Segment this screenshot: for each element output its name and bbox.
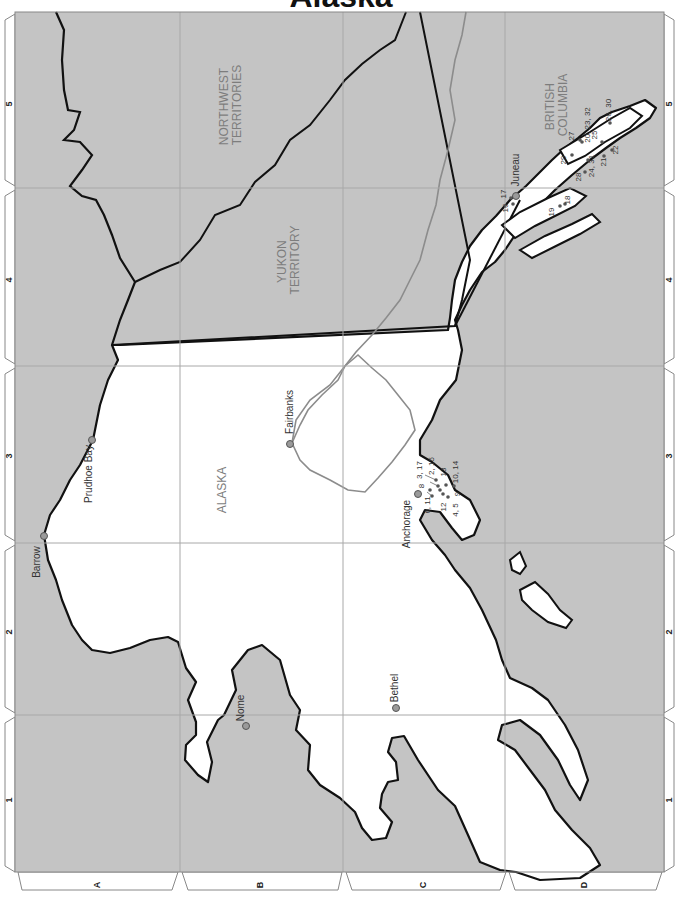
grid-row-right-5: 5 [664,101,674,106]
city-label-juneau: Juneau [510,154,521,187]
city-marker-bethel [393,705,400,712]
site-marker [509,196,513,200]
site-label: 2, 15 [427,457,436,475]
site-label: 22 [611,145,620,154]
site-label: 26, 30 [604,98,613,121]
right-grid-tabs [664,14,674,872]
site-label: 10, 14 [451,460,460,483]
grid-row-right-2: 2 [664,629,674,634]
site-marker [436,484,440,488]
site-label: 9 [453,491,462,496]
grid-row-left-4: 4 [4,277,14,282]
site-marker [438,488,442,492]
grid-col-c: C [418,881,428,888]
grid-col-d: D [579,881,589,888]
grid-row-right-4: 4 [664,277,674,282]
city-label-barrow: Barrow [31,545,42,577]
grid-row-right-3: 3 [664,453,674,458]
site-label: 27 [567,131,576,140]
region-label-nwt: NORTHWEST TERRITORIES [217,65,244,145]
site-label: 21 [599,157,608,166]
site-marker [428,488,432,492]
city-label-anchorage: Anchorage [401,499,412,548]
grid-row-left-3: 3 [4,453,14,458]
site-label: 8 [417,483,426,488]
site-marker [602,154,606,158]
site-marker [441,492,445,496]
alaska-map: 5 4 3 2 1 5 4 3 2 1 A B C D ALASKA YUKON… [0,0,682,910]
site-label: 17 [499,189,508,198]
site-marker [558,204,562,208]
site-marker [570,153,574,157]
city-marker-fairbanks [287,441,294,448]
left-grid-tabs [5,14,15,872]
grid-col-a: A [92,881,102,888]
site-label: 29 [559,155,568,164]
region-label-bc: BRITISH COLUMBIA [543,74,570,137]
site-label: 4, 5 [451,503,460,517]
site-label: 12 [439,502,448,511]
site-marker [446,495,450,499]
city-label-fairbanks: Fairbanks [284,390,295,434]
site-label: 19 [547,207,556,216]
grid-row-left-1: 1 [4,797,14,802]
site-label: 6, 11 [423,496,432,514]
city-label-bethel: Bethel [389,674,400,702]
site-label: 18 [563,195,572,204]
site-label: 13 [439,467,448,476]
city-label-prudhoe-bay: Prudhoe Bay [83,445,94,503]
city-marker-anchorage [415,491,422,498]
region-label-alaska: ALASKA [215,467,229,514]
site-label: 16 [501,203,510,212]
city-marker-prudhoe-bay [89,437,96,444]
site-label: 24, 31 [587,154,596,177]
grid-col-b: B [255,881,265,888]
site-label: 3, 17 [415,461,424,479]
city-label-nome: Nome [235,694,246,721]
site-label: 25 [590,130,599,139]
site-marker [452,484,456,488]
site-marker [511,202,515,206]
site-marker [444,483,448,487]
city-marker-barrow [41,533,48,540]
grid-row-right-1: 1 [664,797,674,802]
site-marker [434,478,438,482]
city-marker-nome [243,723,250,730]
grid-row-left-5: 5 [4,101,14,106]
city-marker-juneau [513,193,520,200]
site-label: 28 [574,172,583,181]
grid-row-left-2: 2 [4,629,14,634]
site-marker [600,140,604,144]
